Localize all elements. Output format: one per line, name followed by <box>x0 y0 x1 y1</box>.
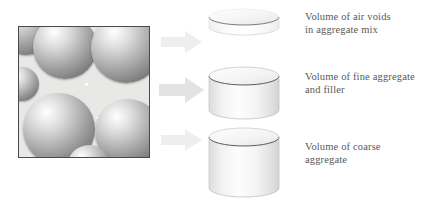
label-air-voids: Volume of air voids in aggregate mix <box>305 11 391 36</box>
label-fine-aggregate: Volume of fine aggregate and filler <box>305 71 415 96</box>
arrow-to-coarse-aggregate <box>161 128 203 152</box>
volume-cylinder-stack <box>204 6 288 198</box>
coarse-aggregate-segment <box>209 128 279 197</box>
fine-aggregate-segment <box>209 67 279 119</box>
label-coarse-aggregate: Volume of coarse aggregate <box>305 141 381 166</box>
air-voids-segment <box>209 9 279 35</box>
aggregate-volume-diagram: Volume of air voids in aggregate mix Vol… <box>0 0 430 204</box>
arrow-to-air-voids <box>161 30 203 54</box>
coarse-aggregate-micrograph <box>18 26 150 158</box>
arrow-to-fine-aggregate <box>159 76 205 104</box>
